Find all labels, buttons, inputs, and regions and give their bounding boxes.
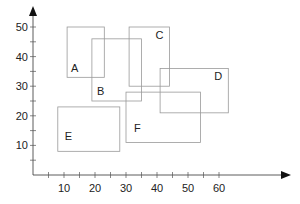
ticks: 1020304050601020304050	[16, 21, 225, 194]
y-tick-label: 30	[16, 80, 28, 92]
rectangle-label: C	[155, 29, 163, 41]
x-tick-label: 30	[120, 182, 132, 194]
rectangles-layer: ABCDEF	[58, 27, 229, 151]
rectangle-f: F	[126, 92, 200, 142]
rectangle-diagram: ABCDEF 1020304050601020304050	[0, 0, 300, 204]
rectangle-label: B	[97, 85, 104, 97]
rectangle-c: C	[129, 27, 169, 86]
x-tick-label: 10	[58, 182, 70, 194]
rectangle-label: E	[65, 130, 72, 142]
x-tick-label: 40	[151, 182, 163, 194]
rectangle-d: D	[160, 68, 228, 112]
x-tick-label: 20	[89, 182, 101, 194]
y-tick-label: 50	[16, 21, 28, 33]
x-axis-arrow-icon	[281, 171, 291, 179]
rectangle-b: B	[92, 39, 142, 101]
y-axis-arrow-icon	[29, 6, 37, 16]
rectangle-label: D	[214, 70, 222, 82]
x-tick-label: 60	[213, 182, 225, 194]
y-tick-label: 40	[16, 51, 28, 63]
rectangle-a: A	[67, 27, 104, 77]
y-tick-label: 10	[16, 139, 28, 151]
x-tick-label: 50	[182, 182, 194, 194]
rectangle-outline	[126, 92, 200, 142]
rectangle-label: F	[134, 122, 141, 134]
y-tick-label: 20	[16, 110, 28, 122]
rectangle-e: E	[58, 107, 120, 151]
rectangle-label: A	[71, 62, 79, 74]
rectangle-outline	[58, 107, 120, 151]
